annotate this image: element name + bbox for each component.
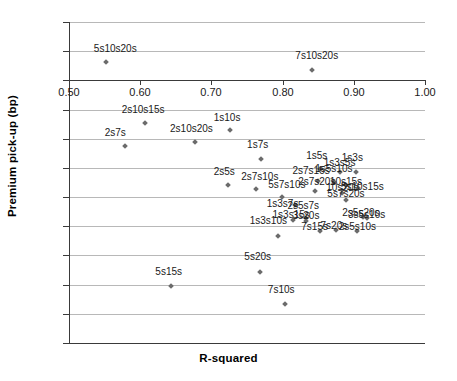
data-point-label: 2s7s [105, 128, 126, 138]
data-point [282, 301, 288, 307]
x-tick-mark [354, 80, 355, 85]
x-tick-mark [69, 80, 70, 85]
data-point-label: 2s10s15s [122, 105, 165, 115]
x-tick-label: 0.70 [186, 87, 236, 98]
x-axis-title: R-squared [0, 352, 457, 364]
data-point-label: 1s10s [214, 113, 241, 123]
x-tick-label: 0.60 [115, 87, 165, 98]
gridline-y [69, 22, 425, 23]
data-point-label: 3s20s [293, 211, 320, 221]
scatter-chart: 420-2-4-6-8-10-12-14-16-18 0.500.600.700… [0, 0, 457, 381]
x-tick-mark [283, 80, 284, 85]
data-point [227, 127, 233, 133]
data-point [253, 186, 259, 192]
data-point-label: 7s10s [268, 285, 295, 295]
data-point-label: 5s7s20s [327, 189, 364, 199]
data-point-label: 5s15s [155, 267, 182, 277]
data-point [313, 188, 319, 194]
x-tick-mark [425, 80, 426, 85]
data-point-label: 5s10s20s [94, 44, 137, 54]
data-point [122, 143, 128, 149]
data-point [142, 120, 148, 126]
data-point-label: 1s5s10s [315, 164, 352, 174]
x-tick-label: 0.90 [329, 87, 379, 98]
x-tick-mark [140, 80, 141, 85]
data-point-label: 1s7s [247, 140, 268, 150]
data-point-label: 2s10s20s [170, 124, 213, 134]
data-point [257, 269, 263, 275]
gridline-y [69, 197, 425, 198]
data-point [225, 183, 231, 189]
gridline-y [69, 168, 425, 169]
gridline-y [69, 80, 425, 81]
data-point-label: 5s20s [244, 252, 271, 262]
y-axis-title: Premium pick-up (bp) [6, 56, 18, 256]
x-tick-mark [211, 80, 212, 85]
gridline-y [69, 285, 425, 286]
data-point [103, 59, 109, 65]
x-tick-label: 0.50 [44, 87, 94, 98]
data-point-label: 2s5s10s [339, 222, 376, 232]
data-point [275, 234, 281, 240]
gridline-y [69, 314, 425, 315]
data-point [353, 169, 359, 175]
data-point [309, 67, 315, 73]
x-tick-label: 1.00 [400, 87, 450, 98]
data-point [168, 283, 174, 289]
y-axis-line [69, 22, 70, 343]
data-point [258, 156, 264, 162]
data-point-label: 7s10s20s [295, 51, 338, 61]
gridline-y [69, 343, 425, 344]
y-tick-mark [63, 343, 70, 344]
data-point-label: 3s5s10s [348, 210, 385, 220]
x-tick-label: 0.80 [258, 87, 308, 98]
data-point-label: 2s5s [214, 167, 235, 177]
